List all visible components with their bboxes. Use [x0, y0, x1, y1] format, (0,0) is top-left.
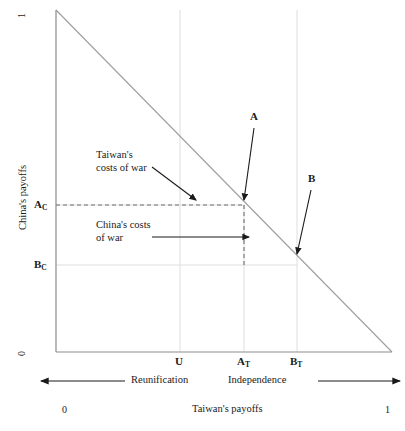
x-tick-label-at: AT [237, 355, 250, 368]
x-tick-bt-sub: T [297, 360, 302, 369]
region-label-independence: Independence [228, 374, 286, 386]
annotation-china-line2: of war [96, 231, 151, 244]
annotation-taiwan-line2: costs of war [96, 161, 147, 174]
y-tick-label-ac: AC [34, 198, 47, 211]
x-tick-label-u: U [175, 355, 183, 368]
pareto-frontier-line [56, 10, 392, 352]
x-tick-at-sub: T [245, 360, 250, 369]
point-a-pointer-arrow [244, 128, 254, 200]
x-axis-max-label: 1 [385, 404, 390, 416]
x-tick-at-base: A [237, 355, 245, 367]
y-tick-ac-sub: C [42, 203, 47, 212]
x-tick-label-bt: BT [290, 355, 302, 368]
annotation-taiwan-costs-of-war: Taiwan's costs of war [96, 148, 147, 174]
annotation-china-costs-of-war: China's costs of war [96, 218, 151, 244]
point-b-pointer-arrow [297, 190, 311, 254]
x-axis-min-label: 0 [62, 404, 67, 416]
taiwan-costs-arrow [152, 167, 196, 200]
y-tick-ac-base: A [34, 198, 42, 210]
gridlines [56, 10, 297, 352]
plot-canvas [0, 0, 405, 431]
y-axis-max-label: 1 [16, 13, 28, 18]
x-axis-title: Taiwan's payoffs [192, 403, 263, 415]
annotation-taiwan-line1: Taiwan's [96, 148, 147, 161]
y-axis-min-label: 0 [16, 351, 28, 356]
region-label-reunification: Reunification [131, 374, 188, 386]
y-tick-label-bc: BC [34, 258, 47, 271]
point-label-b: B [308, 172, 315, 185]
y-axis-title: China's payoffs [17, 165, 29, 230]
payoff-diagram-figure: 1 0 China's payoffs AC BC U AT BT Reunif… [0, 0, 405, 431]
annotation-china-line1: China's costs [96, 218, 151, 231]
x-tick-u-base: U [175, 355, 183, 367]
y-tick-bc-sub: C [41, 263, 46, 272]
point-label-a: A [250, 110, 258, 123]
